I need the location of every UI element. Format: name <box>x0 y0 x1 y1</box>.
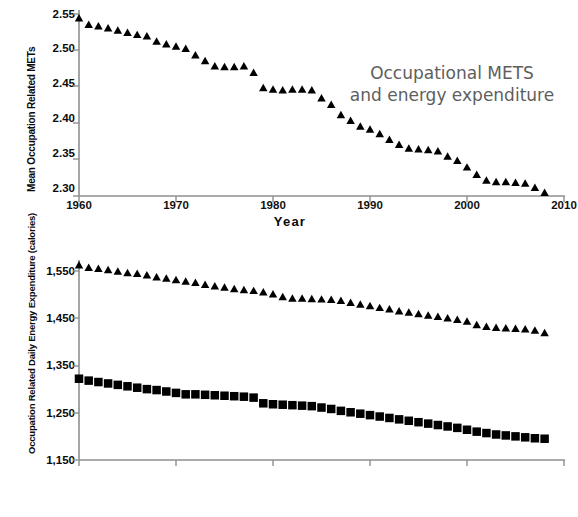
data-point-marker <box>540 434 549 443</box>
data-point-marker <box>123 382 132 391</box>
data-point-marker <box>84 263 93 270</box>
data-point-marker <box>152 386 161 395</box>
data-point-marker <box>172 276 181 283</box>
data-point-marker <box>405 308 414 315</box>
plot-area-energy <box>78 256 578 501</box>
x-tick-mets-1980: 1980 <box>250 199 296 211</box>
data-point-marker <box>366 411 375 420</box>
data-point-marker <box>278 86 287 93</box>
data-point-marker <box>94 378 103 387</box>
data-point-marker <box>249 287 258 294</box>
data-point-marker <box>259 84 268 91</box>
data-point-marker <box>463 163 472 170</box>
data-point-marker <box>288 401 297 410</box>
x-tick-mets-1990: 1990 <box>347 199 393 211</box>
data-point-marker <box>385 414 394 423</box>
data-point-marker <box>162 274 171 281</box>
data-point-marker <box>104 24 113 31</box>
data-point-marker <box>346 117 355 124</box>
data-point-marker <box>482 429 491 438</box>
data-point-marker <box>434 421 443 430</box>
y-tick-mets-255: 2.55 <box>33 8 75 20</box>
data-point-marker <box>211 62 220 69</box>
data-point-marker <box>143 385 152 394</box>
data-point-marker <box>472 427 481 436</box>
data-point-marker <box>123 28 132 35</box>
data-point-marker <box>298 85 307 92</box>
data-point-marker <box>181 390 190 399</box>
data-point-marker <box>172 389 181 398</box>
x-tick-mets-2010: 2010 <box>541 199 578 211</box>
data-point-marker <box>201 57 210 64</box>
data-point-marker <box>298 294 307 301</box>
data-point-marker <box>482 323 491 330</box>
y-tick-mets-250: 2.50 <box>33 42 75 54</box>
data-point-marker <box>94 22 103 29</box>
data-point-marker <box>308 295 317 302</box>
data-point-marker <box>220 63 229 70</box>
series-women-markers <box>75 374 549 443</box>
data-point-marker <box>259 288 268 295</box>
data-point-marker <box>434 147 443 154</box>
data-point-marker <box>162 40 171 47</box>
data-point-marker <box>366 125 375 132</box>
data-point-marker <box>278 293 287 300</box>
data-point-marker <box>463 317 472 324</box>
data-point-marker <box>443 422 452 431</box>
data-point-marker <box>540 189 549 196</box>
data-point-marker <box>114 381 123 390</box>
data-point-marker <box>75 14 84 21</box>
data-point-marker <box>317 295 326 302</box>
data-point-marker <box>327 296 336 303</box>
data-point-marker <box>337 111 346 118</box>
data-point-marker <box>356 300 365 307</box>
data-point-marker <box>104 379 113 388</box>
data-point-marker <box>298 401 307 410</box>
data-point-marker <box>414 418 423 427</box>
data-point-marker <box>434 313 443 320</box>
data-point-marker <box>288 85 297 92</box>
data-point-marker <box>405 144 414 151</box>
data-point-marker <box>463 426 472 435</box>
data-point-marker <box>531 326 540 333</box>
data-point-marker <box>356 409 365 418</box>
data-point-marker <box>288 294 297 301</box>
data-point-marker <box>395 307 404 314</box>
data-point-marker <box>472 321 481 328</box>
y-tick-energy-1250: 1,250 <box>26 407 75 419</box>
data-point-marker <box>152 37 161 44</box>
data-point-marker <box>443 152 452 159</box>
y-tick-mets-235: 2.35 <box>33 147 75 159</box>
data-point-marker <box>240 392 249 401</box>
data-point-marker <box>521 179 530 186</box>
data-point-marker <box>375 412 384 421</box>
data-point-marker <box>385 135 394 142</box>
data-point-marker <box>230 392 239 401</box>
data-point-marker <box>531 434 540 443</box>
data-point-marker <box>472 170 481 177</box>
data-point-marker <box>492 178 501 185</box>
data-point-marker <box>453 315 462 322</box>
figure-occupational-mets: Mean Occupation Related METs 2.55 2.50 2… <box>0 0 578 517</box>
x-tick-mets-2000: 2000 <box>444 199 490 211</box>
data-point-marker <box>502 431 511 440</box>
data-point-marker <box>492 323 501 330</box>
data-point-marker <box>308 86 317 93</box>
data-point-marker <box>114 267 123 274</box>
data-point-marker <box>424 146 433 153</box>
data-point-marker <box>482 176 491 183</box>
data-point-marker <box>424 311 433 318</box>
data-point-marker <box>269 290 278 297</box>
data-point-marker <box>453 157 462 164</box>
series-men-markers <box>75 261 549 336</box>
data-point-marker <box>230 63 239 70</box>
data-point-marker <box>152 273 161 280</box>
data-point-marker <box>424 419 433 428</box>
y-tick-energy-1150: 1,150 <box>26 454 75 466</box>
data-point-marker <box>220 391 229 400</box>
data-point-marker <box>395 415 404 424</box>
data-point-marker <box>220 283 229 290</box>
axes-energy <box>79 260 565 460</box>
data-point-marker <box>230 285 239 292</box>
data-point-marker <box>259 399 268 408</box>
